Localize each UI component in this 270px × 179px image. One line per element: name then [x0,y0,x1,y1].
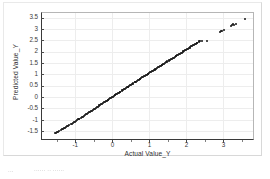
y-axis-tick-label: 3.5 [30,14,38,20]
gridline-horizontal [42,131,253,132]
gridline-horizontal [42,108,253,109]
x-axis-tick-label: 0 [102,142,122,148]
x-axis-tick-label: 2 [176,142,196,148]
y-axis-tick-label: 2.5 [30,37,38,43]
y-axis-tick-label: -1 [33,117,38,123]
y-axis-tick-label: 1.5 [30,60,38,66]
y-axis-tick-mark [41,40,44,41]
data-point [223,29,225,31]
gridline-horizontal [42,86,253,87]
caption-fragment-right: ······ ·· ······ [34,167,64,173]
caption-fragment-left: ··· [8,168,14,174]
y-axis-tick-mark [41,74,44,75]
y-axis-label: Predicted Value_Y [12,18,20,126]
page-root: Predicted Value_Y Actual Value_Y -1.5-1-… [0,0,270,179]
y-axis-tick-mark [41,52,44,53]
data-point [201,40,203,42]
y-axis-tick-mark [41,131,44,132]
x-axis-tick-label: 3 [213,142,233,148]
y-axis-tick-label: -1.5 [28,128,38,134]
x-axis-tick-label: -1 [65,142,85,148]
y-axis-tick-mark [41,18,44,19]
y-axis-tick-mark [41,97,44,98]
y-axis-tick-mark [41,63,44,64]
x-axis-tick-mark [112,140,113,143]
gridline-horizontal [42,97,253,98]
x-axis-minor-tick-mark [242,140,243,142]
y-axis-tick-label: 1 [35,71,38,77]
y-axis-tick-label: -0.5 [28,105,38,111]
x-axis-minor-tick-mark [131,140,132,142]
x-axis-tick-mark [75,140,76,143]
gridline-horizontal [42,63,253,64]
data-point [235,23,237,25]
y-axis-tick-label: 2 [35,48,38,54]
gridline-horizontal [42,18,253,19]
x-axis-tick-mark [186,140,187,143]
x-axis-minor-tick-mark [94,140,95,142]
x-axis-tick-mark [149,140,150,143]
x-axis-minor-tick-mark [168,140,169,142]
gridline-vertical [149,13,150,139]
gridline-horizontal [42,52,253,53]
plot-area [41,12,254,140]
x-axis-minor-tick-mark [205,140,206,142]
gridline-vertical [186,13,187,139]
y-axis-tick-mark [41,29,44,30]
y-axis-tick-label: 0.5 [30,82,38,88]
y-axis-tick-label: 0 [35,94,38,100]
y-axis-tick-label: 3 [35,26,38,32]
gridline-vertical [112,13,113,139]
y-axis-tick-mark [41,86,44,87]
x-axis-label: Actual Value_Y [41,150,254,158]
x-axis-tick-mark [223,140,224,143]
data-point [244,18,246,20]
x-axis-minor-tick-mark [57,140,58,142]
y-axis-tick-mark [41,108,44,109]
gridline-horizontal [42,40,253,41]
scatter-chart-figure: Predicted Value_Y Actual Value_Y -1.5-1-… [0,0,270,179]
x-axis-tick-label: 1 [139,142,159,148]
y-axis-tick-mark [41,120,44,121]
gridline-vertical [223,13,224,139]
caption-fragment: ··· ······ ·· ······ [8,166,158,176]
